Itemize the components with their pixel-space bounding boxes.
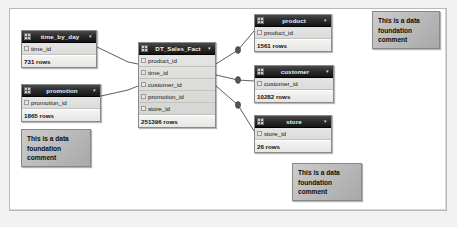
table-field-row[interactable]: time_id xyxy=(22,43,96,55)
table-row-count-label: 251396 rows xyxy=(141,116,178,127)
table-row-count: 26 rows xyxy=(255,140,331,152)
comment-box[interactable]: This is a data foundation comment xyxy=(372,11,440,49)
table-title: promotion xyxy=(33,85,91,96)
table-node-dt_sales_fact[interactable]: DT_Sales_Fact▾product_idtime_idcustomer_… xyxy=(138,42,216,128)
table-field-row[interactable]: promotion_id xyxy=(22,97,100,109)
table-node-promotion[interactable]: promotion▾promotion_id1865 rows xyxy=(21,84,101,122)
table-field-label: time_id xyxy=(148,67,168,78)
table-field-label: time_id xyxy=(31,43,51,54)
table-field-list: product_idtime_idcustomer_idpromotion_id… xyxy=(139,55,215,127)
comment-text: This is a data foundation comment xyxy=(378,16,435,45)
table-node-customer[interactable]: customer▾customer_id10282 rows xyxy=(254,65,334,103)
chevron-down-icon[interactable]: ▾ xyxy=(87,31,94,42)
column-icon xyxy=(141,94,146,99)
table-row-count: 1561 rows xyxy=(255,39,331,51)
table-row-count: 10282 rows xyxy=(255,90,333,102)
column-icon xyxy=(257,81,262,86)
chevron-down-icon[interactable]: ▾ xyxy=(206,43,213,54)
table-row-count-label: 1561 rows xyxy=(257,40,287,51)
table-field-list: customer_id10282 rows xyxy=(255,78,333,102)
table-grid-icon xyxy=(257,68,264,75)
chevron-down-icon[interactable]: ▾ xyxy=(322,15,329,26)
table-row-count: 1865 rows xyxy=(22,109,100,121)
table-header[interactable]: product▾ xyxy=(255,15,331,27)
column-icon xyxy=(141,106,146,111)
table-row-count: 251396 rows xyxy=(139,115,215,127)
table-field-label: customer_id xyxy=(264,78,298,89)
table-header[interactable]: DT_Sales_Fact▾ xyxy=(139,43,215,55)
chevron-down-icon[interactable]: ▾ xyxy=(324,66,331,77)
table-row-count: 731 rows xyxy=(22,55,96,67)
diagram-canvas: time_by_day▾time_id731 rowspromotion▾pro… xyxy=(0,0,457,227)
table-field-label: product_id xyxy=(148,55,177,66)
comment-text: This is a data foundation comment xyxy=(298,168,357,197)
column-icon xyxy=(141,58,146,63)
table-field-row[interactable]: customer_id xyxy=(255,78,333,90)
table-grid-icon xyxy=(24,33,31,40)
table-title: time_by_day xyxy=(33,31,87,42)
table-node-product[interactable]: product▾product_id1561 rows xyxy=(254,14,332,52)
table-grid-icon xyxy=(24,87,31,94)
table-grid-icon xyxy=(257,17,264,24)
table-field-list: promotion_id1865 rows xyxy=(22,97,100,121)
chevron-down-icon[interactable]: ▾ xyxy=(322,116,329,127)
comment-box[interactable]: This is a data foundation comment xyxy=(292,163,362,201)
table-header[interactable]: store▾ xyxy=(255,116,331,128)
table-field-list: store_id26 rows xyxy=(255,128,331,152)
table-field-row[interactable]: product_id xyxy=(255,27,331,39)
table-row-count-label: 26 rows xyxy=(257,141,280,152)
table-field-row[interactable]: customer_id xyxy=(139,79,215,91)
table-header[interactable]: customer▾ xyxy=(255,66,333,78)
table-field-list: product_id1561 rows xyxy=(255,27,331,51)
table-field-label: promotion_id xyxy=(148,91,184,102)
table-title: DT_Sales_Fact xyxy=(150,43,206,54)
table-header[interactable]: promotion▾ xyxy=(22,85,100,97)
table-row-count-label: 1865 rows xyxy=(24,110,54,121)
table-field-label: store_id xyxy=(264,128,286,139)
table-title: store xyxy=(266,116,322,127)
table-node-time_by_day[interactable]: time_by_day▾time_id731 rows xyxy=(21,30,97,68)
table-field-row[interactable]: store_id xyxy=(139,103,215,115)
column-icon xyxy=(257,131,262,136)
table-title: product xyxy=(266,15,322,26)
table-node-store[interactable]: store▾store_id26 rows xyxy=(254,115,332,153)
table-row-count-label: 10282 rows xyxy=(257,91,290,102)
column-icon xyxy=(24,46,29,51)
table-grid-icon xyxy=(257,118,264,125)
table-field-label: product_id xyxy=(264,27,293,38)
table-field-row[interactable]: store_id xyxy=(255,128,331,140)
table-grid-icon xyxy=(141,45,148,52)
table-header[interactable]: time_by_day▾ xyxy=(22,31,96,43)
table-field-label: promotion_id xyxy=(31,97,67,108)
column-icon xyxy=(257,30,262,35)
table-field-list: time_id731 rows xyxy=(22,43,96,67)
column-icon xyxy=(141,82,146,87)
table-field-row[interactable]: time_id xyxy=(139,67,215,79)
column-icon xyxy=(141,70,146,75)
comment-text: This is a data foundation comment xyxy=(27,134,86,163)
column-icon xyxy=(24,100,29,105)
table-title: customer xyxy=(266,66,324,77)
table-field-row[interactable]: promotion_id xyxy=(139,91,215,103)
table-field-label: customer_id xyxy=(148,79,182,90)
comment-box[interactable]: This is a data foundation comment xyxy=(21,129,91,167)
table-field-row[interactable]: product_id xyxy=(139,55,215,67)
table-row-count-label: 731 rows xyxy=(24,56,50,67)
table-field-label: store_id xyxy=(148,103,170,114)
chevron-down-icon[interactable]: ▾ xyxy=(91,85,98,96)
